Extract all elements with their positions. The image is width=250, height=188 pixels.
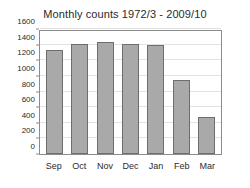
x-axis-tick-label: Mar [194, 156, 220, 178]
y-axis: 02004006008001000120014001600 [0, 30, 39, 155]
bar-slot [42, 31, 67, 154]
bar[interactable] [198, 117, 215, 155]
plot-area [39, 30, 222, 155]
bar[interactable] [46, 50, 63, 154]
bar-slot [118, 31, 143, 154]
bar-slot [143, 31, 168, 154]
y-axis-tick-label: 600 [22, 95, 35, 104]
bar-slot [168, 31, 193, 154]
gridline [40, 28, 221, 29]
y-axis-tick-label: 1400 [17, 32, 35, 41]
y-axis-tick-label: 200 [22, 126, 35, 135]
x-axis-tick-label: Oct [67, 156, 93, 178]
bar[interactable] [147, 45, 164, 154]
x-axis-tick-label: Nov [92, 156, 118, 178]
y-axis-tick-label: 0 [31, 142, 35, 151]
y-axis-tick-label: 1200 [17, 48, 35, 57]
x-axis-tick-label: Sep [41, 156, 67, 178]
bar[interactable] [122, 44, 139, 154]
bar-chart-figure: Monthly counts 1972/3 - 2009/10 02004006… [0, 0, 250, 188]
bar[interactable] [173, 80, 190, 154]
x-axis-tick-label: Dec [118, 156, 144, 178]
bar-slot [93, 31, 118, 154]
y-axis-tick-label: 800 [22, 79, 35, 88]
x-axis-tick-label: Jan [143, 156, 169, 178]
bar-slot [67, 31, 92, 154]
bar-series [40, 31, 221, 154]
y-axis-tick-label: 400 [22, 110, 35, 119]
chart-title: Monthly counts 1972/3 - 2009/10 [0, 8, 250, 20]
x-axis: SepOctNovDecJanFebMar [39, 156, 222, 178]
x-axis-tick-label: Feb [169, 156, 195, 178]
bar[interactable] [71, 44, 88, 154]
y-axis-tick-label: 1600 [17, 17, 35, 26]
bar-slot [194, 31, 219, 154]
y-axis-tick-label: 1000 [17, 63, 35, 72]
bar[interactable] [97, 42, 114, 155]
